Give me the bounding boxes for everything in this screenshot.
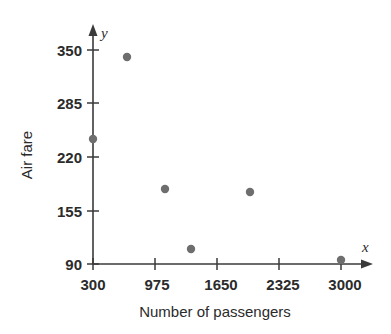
y-axis-title: Air fare	[18, 131, 35, 179]
x-tick-label-300: 300	[80, 276, 105, 293]
y-tick-label-350: 350	[57, 42, 82, 59]
x-axis-title: Number of passengers	[139, 303, 291, 320]
y-tick-label-285: 285	[57, 95, 82, 112]
y-axis-arrowhead	[89, 24, 98, 36]
data-point	[187, 245, 195, 253]
data-point	[89, 135, 97, 143]
data-point	[246, 188, 254, 196]
y-tick-label-90: 90	[65, 256, 82, 273]
x-tick-label-975: 975	[144, 276, 169, 293]
x-tick-label-1650: 1650	[204, 276, 237, 293]
data-points	[89, 53, 345, 264]
y-axis	[89, 24, 98, 264]
x-axis	[93, 260, 373, 269]
y-axis-letter: y	[99, 25, 108, 41]
x-axis-arrowhead	[361, 260, 373, 269]
data-point	[123, 53, 131, 61]
plot-area: 350 285 220 155 90 300 975 1650 2325 300…	[0, 0, 391, 334]
data-point	[337, 256, 345, 264]
scatter-chart: 350 285 220 155 90 300 975 1650 2325 300…	[0, 0, 391, 334]
x-axis-letter: x	[361, 239, 369, 255]
data-point	[161, 185, 169, 193]
x-tick-label-2325: 2325	[266, 276, 299, 293]
y-tick-label-220: 220	[57, 149, 82, 166]
x-tick-label-3000: 3000	[328, 276, 361, 293]
y-tick-label-155: 155	[57, 203, 82, 220]
